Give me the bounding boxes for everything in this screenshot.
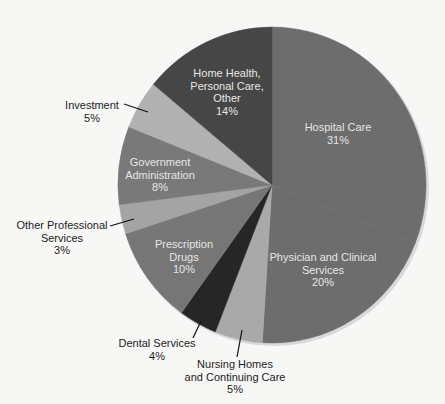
label-value: 20% bbox=[270, 276, 377, 289]
label-home-health: Home Health, Personal Care, Other 14% bbox=[190, 67, 263, 117]
label-text: Dental Services bbox=[118, 337, 195, 350]
label-government-administration: Government Administration 8% bbox=[125, 156, 195, 194]
label-value: 14% bbox=[190, 105, 263, 118]
label-text: Investment bbox=[65, 99, 119, 112]
label-text: Other Professional bbox=[16, 219, 107, 232]
label-investment: Investment 5% bbox=[65, 99, 119, 124]
label-text: Government bbox=[125, 156, 195, 169]
label-value: 31% bbox=[305, 134, 372, 147]
label-text: Services bbox=[16, 232, 107, 245]
label-physician-clinical: Physician and Clinical Services 20% bbox=[270, 251, 377, 289]
label-text: Home Health, bbox=[190, 67, 263, 80]
label-value: 8% bbox=[125, 181, 195, 194]
label-text: and Continuing Care bbox=[185, 371, 286, 384]
label-value: 10% bbox=[155, 263, 213, 276]
label-other-professional: Other Professional Services 3% bbox=[16, 219, 107, 257]
label-text: Physician and Clinical bbox=[270, 251, 377, 264]
label-value: 3% bbox=[16, 244, 107, 257]
label-text: Services bbox=[270, 264, 377, 277]
label-text: Prescription bbox=[155, 238, 213, 251]
pie-chart bbox=[0, 0, 445, 404]
label-text: Other bbox=[190, 92, 263, 105]
label-value: 5% bbox=[185, 383, 286, 396]
label-nursing-homes: Nursing Homes and Continuing Care 5% bbox=[185, 358, 286, 396]
label-hospital-care: Hospital Care 31% bbox=[305, 121, 372, 146]
label-text: Personal Care, bbox=[190, 80, 263, 93]
label-prescription-drugs: Prescription Drugs 10% bbox=[155, 238, 213, 276]
label-text: Nursing Homes bbox=[185, 358, 286, 371]
label-text: Administration bbox=[125, 169, 195, 182]
label-value: 5% bbox=[65, 112, 119, 125]
label-text: Drugs bbox=[155, 251, 213, 264]
label-text: Hospital Care bbox=[305, 121, 372, 134]
